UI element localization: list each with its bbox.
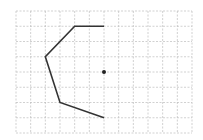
grid-diagram — [0, 0, 203, 140]
center-point — [102, 70, 106, 74]
